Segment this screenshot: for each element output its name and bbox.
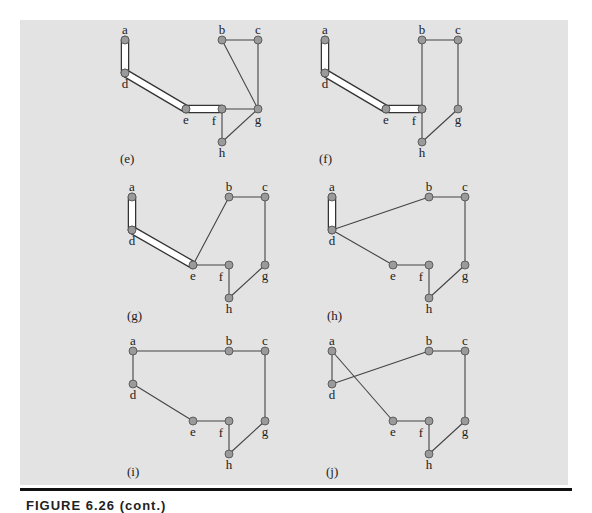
edge-e-d bbox=[133, 384, 193, 421]
vertex-label-g: g bbox=[255, 112, 262, 127]
panel-j: abcdefgh(j) bbox=[326, 333, 469, 479]
vertex-label-d: d bbox=[129, 233, 136, 248]
vertex-label-e: e bbox=[190, 424, 196, 439]
figure-rule bbox=[20, 488, 572, 491]
vertex-b bbox=[225, 347, 233, 355]
vertex-a bbox=[321, 36, 329, 44]
vertex-b bbox=[425, 347, 433, 355]
vertex-f bbox=[225, 417, 233, 425]
vertex-a bbox=[128, 193, 136, 201]
vertex-label-d: d bbox=[122, 76, 129, 91]
vertex-label-c: c bbox=[455, 22, 461, 37]
vertex-label-b: b bbox=[219, 22, 226, 37]
highlight-edge-d-e bbox=[325, 73, 386, 109]
vertex-label-c: c bbox=[262, 179, 268, 194]
panel-label: (h) bbox=[327, 308, 342, 323]
figure-caption: FIGURE 6.26 (cont.) bbox=[26, 498, 166, 513]
vertex-label-g: g bbox=[462, 424, 469, 439]
vertex-f bbox=[418, 105, 426, 113]
vertex-label-g: g bbox=[262, 268, 269, 283]
vertex-label-h: h bbox=[226, 457, 233, 472]
vertex-c bbox=[261, 193, 269, 201]
panel-e: abcdefgh(e) bbox=[120, 22, 262, 166]
edge-g-h bbox=[429, 421, 465, 454]
vertex-label-e: e bbox=[383, 112, 389, 127]
vertex-label-g: g bbox=[262, 424, 269, 439]
highlight-edge-d-e bbox=[132, 230, 193, 265]
vertex-label-a: a bbox=[130, 333, 136, 348]
panel-label: (e) bbox=[120, 151, 134, 166]
panel-label: (f) bbox=[319, 151, 332, 166]
vertex-label-h: h bbox=[426, 457, 433, 472]
vertex-b bbox=[418, 36, 426, 44]
vertex-label-d: d bbox=[329, 233, 336, 248]
panel-label: (g) bbox=[127, 308, 142, 323]
vertex-label-f: f bbox=[419, 425, 424, 440]
vertex-label-f: f bbox=[412, 113, 417, 128]
vertex-label-e: e bbox=[190, 268, 196, 283]
vertex-a bbox=[328, 193, 336, 201]
panel-h: abcdefgh(h) bbox=[327, 179, 469, 323]
vertex-c bbox=[461, 347, 469, 355]
vertex-label-b: b bbox=[426, 333, 433, 348]
edge-d-b bbox=[332, 197, 429, 230]
vertex-label-b: b bbox=[226, 333, 233, 348]
vertex-c bbox=[261, 347, 269, 355]
vertex-label-e: e bbox=[183, 112, 189, 127]
edge-e-a bbox=[332, 351, 393, 421]
vertex-f bbox=[425, 261, 433, 269]
vertex-label-g: g bbox=[455, 112, 462, 127]
edge-g-h bbox=[229, 421, 265, 454]
vertex-label-h: h bbox=[226, 301, 233, 316]
vertex-label-d: d bbox=[322, 76, 329, 91]
vertex-label-e: e bbox=[390, 268, 396, 283]
vertex-label-a: a bbox=[129, 179, 135, 194]
vertex-c bbox=[454, 36, 462, 44]
panel-f: abcdefgh(f) bbox=[319, 22, 462, 166]
edge-h-g bbox=[222, 109, 258, 142]
vertex-label-c: c bbox=[255, 22, 261, 37]
panel-g: abcdefgh(g) bbox=[127, 179, 269, 323]
vertex-label-d: d bbox=[329, 387, 336, 402]
highlight-edge-d-e bbox=[125, 73, 186, 109]
edge-g-h bbox=[229, 265, 265, 298]
vertex-label-a: a bbox=[122, 22, 128, 37]
vertex-label-h: h bbox=[426, 301, 433, 316]
edge-e-b bbox=[193, 197, 229, 265]
vertex-c bbox=[254, 36, 262, 44]
vertex-c bbox=[461, 193, 469, 201]
vertex-b bbox=[225, 193, 233, 201]
vertex-b bbox=[425, 193, 433, 201]
panel-label: (i) bbox=[127, 464, 139, 479]
vertex-label-c: c bbox=[462, 333, 468, 348]
edge-g-h bbox=[422, 109, 458, 142]
vertex-label-d: d bbox=[130, 387, 137, 402]
vertex-label-a: a bbox=[322, 22, 328, 37]
vertex-f bbox=[225, 261, 233, 269]
vertex-label-c: c bbox=[462, 179, 468, 194]
vertex-b bbox=[218, 36, 226, 44]
vertex-f bbox=[425, 417, 433, 425]
vertex-label-b: b bbox=[226, 179, 233, 194]
panel-i: abcdefgh(i) bbox=[127, 333, 269, 479]
vertex-label-h: h bbox=[219, 145, 226, 160]
vertex-label-a: a bbox=[329, 333, 335, 348]
vertex-label-a: a bbox=[329, 179, 335, 194]
edge-b-g bbox=[222, 40, 258, 109]
vertex-label-h: h bbox=[419, 145, 426, 160]
vertex-label-g: g bbox=[462, 268, 469, 283]
vertex-label-b: b bbox=[419, 22, 426, 37]
vertex-label-c: c bbox=[262, 333, 268, 348]
vertex-a bbox=[121, 36, 129, 44]
vertex-a bbox=[328, 347, 336, 355]
panel-label: (j) bbox=[326, 464, 338, 479]
vertex-label-f: f bbox=[212, 113, 217, 128]
vertex-label-f: f bbox=[219, 269, 224, 284]
edge-e-d bbox=[332, 230, 393, 265]
vertex-f bbox=[218, 105, 226, 113]
vertex-a bbox=[129, 347, 137, 355]
vertex-label-f: f bbox=[419, 269, 424, 284]
vertex-label-f: f bbox=[219, 425, 224, 440]
edge-g-h bbox=[429, 265, 465, 298]
